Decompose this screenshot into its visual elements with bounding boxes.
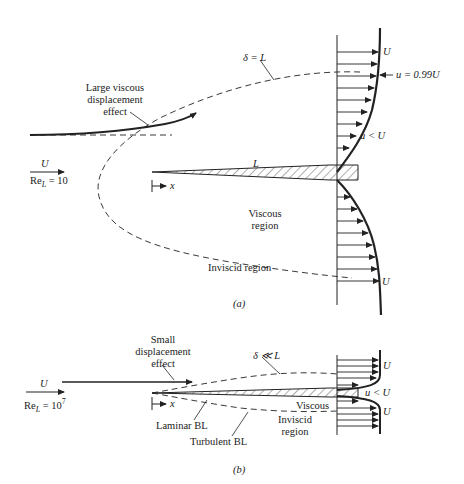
x-axis-label-b: x [170, 398, 175, 410]
annotation-line-3: effect [80, 106, 150, 118]
inviscid-region-label-a: Inviscid region [208, 262, 271, 274]
annotation-line-1: Small [128, 334, 198, 346]
re-sub: L [36, 405, 40, 414]
reynolds-label-a: ReL = 10 [30, 175, 68, 191]
delta-label-b: δ ≪ L [253, 350, 280, 362]
plate-length-label: L [253, 158, 259, 170]
laminar-bl-label: Laminar BL [156, 420, 208, 432]
re-value: = 10 [43, 400, 62, 411]
reynolds-label-b: ReL = 107 [24, 396, 66, 416]
freestream-label-b: U [40, 378, 48, 390]
delta-label-a: δ = L [243, 52, 266, 64]
inviscid-line-2: region [270, 426, 320, 438]
boundary-layer-figure: Large viscous displacement effect U ReL … [0, 0, 464, 484]
small-displacement-annotation: Small displacement effect [128, 334, 198, 370]
profile-inner-label-b: u < U [365, 387, 390, 399]
edge-velocity-label: u = 0.99U [396, 69, 440, 81]
inviscid-line-1: Inviscid [270, 414, 320, 426]
turbulent-bl-label: Turbulent BL [190, 436, 247, 448]
viscous-line-1: Viscous [235, 208, 295, 220]
annotation-line-1: Large viscous [80, 82, 150, 94]
velocity-profile-lower-a [337, 180, 381, 315]
large-displacement-annotation: Large viscous displacement effect [80, 82, 150, 118]
velocity-profile-lower-b [337, 396, 380, 434]
re-value: = 10 [49, 175, 68, 186]
caption-a: (a) [233, 298, 245, 310]
viscous-line-2: region [235, 220, 295, 232]
profile-bottom-label-a: U [382, 276, 390, 288]
profile-top-label-b: U [383, 360, 391, 372]
inviscid-region-label-b: Inviscid region [270, 414, 320, 438]
re-exponent: 7 [62, 397, 66, 406]
flat-plate-b [152, 388, 358, 397]
re-text: Re [30, 175, 42, 186]
profile-top-label-a: U [383, 46, 391, 58]
velocity-profile-upper-b [337, 350, 380, 390]
viscous-label-b: Viscous [296, 400, 329, 412]
x-axis-label-a: x [170, 180, 175, 192]
profile-bottom-label-b: U [383, 406, 391, 418]
re-text: Re [24, 400, 36, 411]
annotation-line-3: effect [128, 358, 198, 370]
caption-b: (b) [233, 464, 245, 476]
annotation-line-2: displacement [128, 346, 198, 358]
annotation-line-2: displacement [80, 94, 150, 106]
freestream-label-a: U [41, 158, 49, 170]
re-sub: L [42, 180, 46, 189]
viscous-region-label-a: Viscous region [235, 208, 295, 232]
diagram-graphics [0, 0, 464, 484]
profile-inner-label-a: u < U [360, 130, 385, 142]
